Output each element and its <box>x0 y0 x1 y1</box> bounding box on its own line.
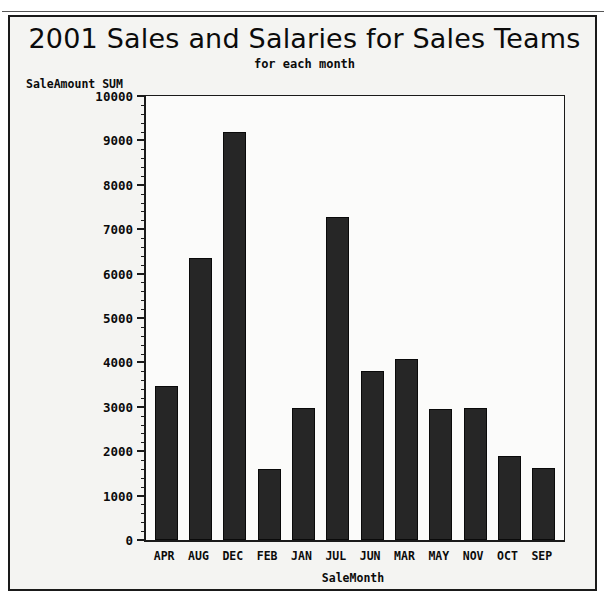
y-axis-tick-label: 8000 <box>103 177 133 192</box>
y-axis-tick-label: 1000 <box>103 488 133 503</box>
bar-slot <box>424 96 458 540</box>
x-axis-tick-label: APR <box>147 549 181 563</box>
bar-slot <box>527 96 561 540</box>
y-axis-tick-label: 4000 <box>103 355 133 370</box>
bar <box>258 469 281 540</box>
chart-title: 2001 Sales and Salaries for Sales Teams <box>10 23 599 54</box>
bar-slot <box>286 96 320 540</box>
y-axis-tick-label: 6000 <box>103 266 133 281</box>
x-axis-tick-label: MAY <box>422 549 456 563</box>
x-axis-tick-labels: APRAUGDECFEBJANJULJUNMARMAYNOVOCTSEP <box>144 549 562 563</box>
y-axis-major-tick <box>137 273 146 275</box>
bar-slot <box>252 96 286 540</box>
bar <box>223 132 246 540</box>
y-axis-tick-label: 9000 <box>103 133 133 148</box>
chart-subtitle: for each month <box>10 57 599 71</box>
y-axis-tick-label: 7000 <box>103 222 133 237</box>
bar <box>155 386 178 540</box>
bar <box>189 258 212 540</box>
x-axis-tick-label: JUL <box>319 549 353 563</box>
bar-slot <box>355 96 389 540</box>
bar-slot <box>492 96 526 540</box>
x-axis-tick-label: MAR <box>387 549 421 563</box>
scan-horizontal-rule <box>2 11 604 12</box>
bar <box>498 456 521 540</box>
bar-series <box>146 96 564 540</box>
bar-slot <box>183 96 217 540</box>
y-axis-major-tick <box>137 184 146 186</box>
scan-top-text-fragment <box>0 0 606 11</box>
bar-slot <box>149 96 183 540</box>
y-axis-tick-label: 0 <box>125 533 133 548</box>
y-axis-tick-label: 3000 <box>103 399 133 414</box>
y-axis-tick-label: 5000 <box>103 311 133 326</box>
bar <box>464 408 487 540</box>
x-axis-tick-label: JAN <box>284 549 318 563</box>
x-axis-tick-label: DEC <box>216 549 250 563</box>
x-axis-tick-label: SEP <box>525 549 559 563</box>
bar-slot <box>218 96 252 540</box>
y-axis-major-tick <box>137 228 146 230</box>
bar-slot <box>321 96 355 540</box>
x-axis-tick-label: NOV <box>456 549 490 563</box>
x-axis-tick-label: AUG <box>181 549 215 563</box>
bar <box>532 468 555 540</box>
bar <box>292 408 315 540</box>
scanned-page: 2001 Sales and Salaries for Sales Teams … <box>0 0 606 599</box>
y-axis-major-tick <box>137 450 146 452</box>
chart-frame: 2001 Sales and Salaries for Sales Teams … <box>8 15 597 591</box>
x-axis-title: SaleMonth <box>144 571 562 585</box>
plot-area: 1000090008000700060005000400030002000100… <box>144 95 565 542</box>
y-axis-major-tick <box>137 539 146 541</box>
y-axis-tick-label: 10000 <box>95 89 133 104</box>
bar <box>326 217 349 540</box>
y-axis-major-tick <box>137 139 146 141</box>
bar <box>429 409 452 540</box>
bar-slot <box>458 96 492 540</box>
bar-slot <box>389 96 423 540</box>
x-axis-tick-label: JUN <box>353 549 387 563</box>
y-axis-major-tick <box>137 406 146 408</box>
y-axis-major-tick <box>137 95 146 97</box>
y-axis-major-tick <box>137 317 146 319</box>
y-axis-major-tick <box>137 495 146 497</box>
y-axis-tick-label: 2000 <box>103 444 133 459</box>
bar <box>395 359 418 540</box>
bar <box>361 371 384 540</box>
y-axis-major-tick <box>137 361 146 363</box>
x-axis-tick-label: OCT <box>490 549 524 563</box>
x-axis-tick-label: FEB <box>250 549 284 563</box>
